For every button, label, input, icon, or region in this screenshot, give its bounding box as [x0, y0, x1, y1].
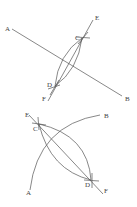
label-e: E — [25, 111, 29, 119]
label-c: C — [75, 34, 80, 42]
label-f: F — [42, 95, 46, 103]
label-b: B — [104, 112, 109, 120]
arc-ab — [30, 115, 100, 190]
label-a: A — [26, 189, 31, 197]
label-d: D — [47, 81, 52, 89]
line-ef — [48, 20, 93, 101]
arc-right — [55, 38, 82, 86]
label-b: B — [125, 95, 130, 103]
geometry-figures: A B C D E F A B C D E F — [0, 0, 137, 207]
label-a: A — [5, 25, 10, 33]
arc-left — [55, 38, 82, 86]
segment-ab — [12, 29, 122, 96]
label-e: E — [95, 14, 99, 22]
label-f: F — [104, 187, 108, 195]
diagram: A B C D E F A B C D E F — [0, 0, 137, 207]
figure-2 — [29, 115, 103, 194]
tick-c2 — [38, 117, 39, 130]
figure-1 — [12, 20, 122, 101]
arc-upper — [39, 124, 91, 180]
label-d: D — [85, 181, 90, 189]
label-c: C — [33, 125, 38, 133]
